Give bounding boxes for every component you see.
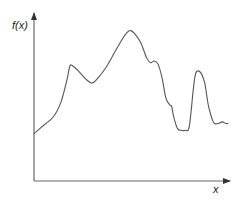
function-curve (34, 30, 228, 133)
function-chart: f(x) x (0, 0, 243, 201)
chart-canvas: f(x) x (0, 0, 243, 201)
x-axis-label: x (212, 183, 219, 195)
y-axis-label: f(x) (12, 19, 28, 31)
